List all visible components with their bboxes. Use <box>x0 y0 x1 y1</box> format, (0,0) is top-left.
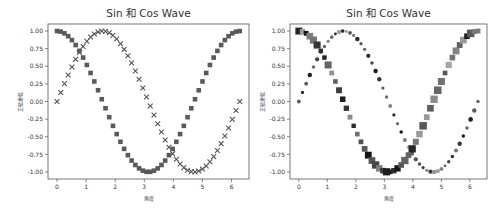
marker-circle <box>385 95 389 99</box>
marker-square <box>193 97 198 102</box>
marker-square <box>446 62 452 68</box>
marker-circle <box>366 54 370 58</box>
y-tick-label: 0.75 <box>272 45 286 52</box>
marker-square <box>406 152 412 158</box>
marker-square <box>237 29 242 34</box>
marker-circle <box>414 157 418 161</box>
marker-circle <box>381 86 384 89</box>
marker-x <box>70 65 75 70</box>
marker-square <box>333 79 338 84</box>
marker-square <box>348 115 353 120</box>
marker-square <box>453 47 460 54</box>
marker-square <box>314 42 321 49</box>
marker-square <box>77 49 82 54</box>
marker-circle <box>447 160 450 163</box>
marker-x <box>219 141 224 146</box>
marker-square <box>170 147 175 152</box>
marker-square <box>178 132 183 137</box>
chart-left-canvas: Sin 和 Cos Wave-1.00-0.75-0.50-0.250.000.… <box>0 0 252 211</box>
marker-circle <box>334 33 337 36</box>
marker-circle <box>345 30 348 33</box>
marker-square <box>122 147 127 152</box>
y-tick-label: -0.50 <box>269 133 285 140</box>
marker-x <box>211 154 216 159</box>
marker-x <box>129 61 134 66</box>
x-tick-label: 5 <box>439 183 443 190</box>
data-points <box>55 29 243 175</box>
marker-square <box>204 71 209 76</box>
y-tick-label: -1.00 <box>269 168 285 175</box>
marker-square <box>73 43 78 48</box>
y-tick-label: -0.50 <box>27 133 43 140</box>
marker-square <box>107 115 112 120</box>
marker-circle <box>337 30 342 35</box>
marker-square <box>427 105 434 112</box>
marker-square <box>419 122 426 129</box>
marker-square <box>70 38 75 43</box>
x-axis-label: 角度 <box>384 195 394 202</box>
marker-square <box>325 61 332 68</box>
marker-circle <box>359 42 362 45</box>
marker-square <box>344 106 349 111</box>
marker-circle <box>363 48 366 51</box>
y-axis-label: 正弦余弦 <box>17 92 24 112</box>
x-tick-label: 4 <box>411 183 415 190</box>
x-tick-label: 4 <box>171 183 175 190</box>
marker-square <box>163 158 168 163</box>
x-tick-label: 0 <box>55 183 59 190</box>
marker-x <box>125 53 130 58</box>
marker-circle <box>476 100 480 104</box>
chart-title: Sin 和 Cos Wave <box>106 7 190 19</box>
marker-circle <box>465 126 469 130</box>
marker-square <box>81 55 86 60</box>
marker-circle <box>355 37 360 42</box>
y-tick-label: 0.25 <box>272 80 286 87</box>
marker-square <box>409 145 416 152</box>
marker-square <box>185 115 190 120</box>
x-tick-label: 6 <box>468 183 472 190</box>
marker-x <box>62 81 67 86</box>
marker-square <box>434 86 442 94</box>
marker-x <box>58 90 63 95</box>
marker-circle <box>330 35 334 39</box>
marker-square <box>215 49 220 54</box>
marker-square <box>208 63 213 68</box>
y-tick-label: -1.00 <box>27 168 43 175</box>
x-tick-label: 1 <box>84 183 88 190</box>
marker-x <box>237 99 242 104</box>
y-tick-label: 0.25 <box>30 80 44 87</box>
marker-x <box>148 104 153 109</box>
marker-circle <box>297 100 301 104</box>
marker-square <box>88 71 93 76</box>
marker-square <box>167 153 172 158</box>
marker-square <box>189 106 194 111</box>
marker-x <box>137 77 142 82</box>
marker-square <box>362 146 368 152</box>
marker-x <box>73 57 78 62</box>
marker-x <box>133 69 138 74</box>
marker-square <box>223 38 228 43</box>
marker-square <box>424 114 430 120</box>
marker-circle <box>392 113 395 116</box>
marker-circle <box>444 165 447 168</box>
marker-square <box>413 139 419 145</box>
marker-square <box>114 132 119 137</box>
marker-square <box>416 131 423 138</box>
marker-square <box>351 124 355 128</box>
y-tick-label: 0.50 <box>272 62 286 69</box>
marker-square <box>103 106 108 111</box>
marker-x <box>118 41 123 46</box>
marker-x <box>174 157 179 162</box>
marker-circle <box>348 31 352 35</box>
marker-square <box>430 96 437 103</box>
chart-right: Sin 和 Cos Wave-1.00-0.75-0.50-0.250.000.… <box>252 0 503 211</box>
marker-square <box>174 140 179 145</box>
marker-circle <box>432 170 437 175</box>
marker-x <box>152 113 157 118</box>
marker-circle <box>327 40 330 43</box>
marker-square <box>200 79 205 84</box>
x-tick-label: 0 <box>297 183 301 190</box>
marker-circle <box>472 108 476 112</box>
marker-square <box>129 158 134 163</box>
marker-circle <box>370 61 373 64</box>
